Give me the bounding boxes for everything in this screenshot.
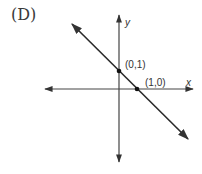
x-axis-label: x bbox=[185, 77, 192, 88]
plotted-line bbox=[72, 24, 188, 139]
y-axis-label: y bbox=[124, 17, 131, 28]
point-0-1 bbox=[117, 69, 122, 74]
point-label-0-1: (0,1) bbox=[125, 59, 146, 70]
coordinate-plane: (0,1) (1,0) x y bbox=[0, 0, 202, 174]
point-1-0 bbox=[135, 87, 140, 92]
point-label-1-0: (1,0) bbox=[145, 77, 166, 88]
